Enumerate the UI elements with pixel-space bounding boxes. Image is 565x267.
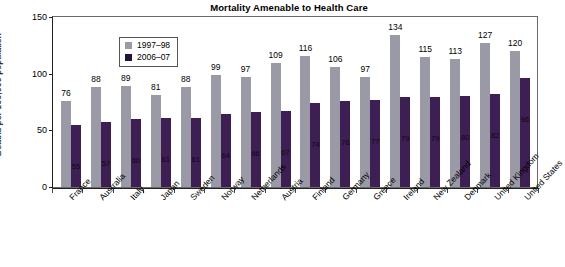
bar-2006-07: 79: [400, 97, 410, 187]
y-tick-label: 50: [23, 126, 47, 135]
y-tick-mark: [49, 130, 53, 131]
bar-2006-07: 74: [310, 103, 320, 187]
x-axis-labels: FranceAustraliaItalyJapanSwedenNorwayNet…: [52, 190, 538, 266]
bar-value-label: 80: [461, 134, 469, 142]
bar-value-label: 76: [341, 139, 349, 147]
bar-value-label: 77: [371, 138, 379, 146]
bar-1997-98: 88: [181, 87, 191, 187]
bar-value-label: 127: [478, 31, 492, 40]
bar-2006-07: 55: [71, 125, 81, 187]
y-tick-label: 100: [23, 70, 47, 79]
legend-item-new: 2006–07: [125, 53, 170, 63]
bar-value-label: 134: [388, 23, 402, 32]
bar-value-label: 116: [299, 44, 313, 53]
bar-group: 12782: [475, 17, 505, 187]
bar-group: 13479: [385, 17, 415, 187]
bar-group: 7655: [56, 17, 86, 187]
bar-group: 9766: [236, 17, 266, 187]
y-tick-label: 150: [23, 13, 47, 22]
bar-group: 11380: [445, 17, 475, 187]
bar-value-label: 82: [491, 132, 499, 140]
bar-value-label: 109: [268, 51, 282, 60]
bar-value-label: 61: [192, 156, 200, 164]
bar-group: 8857: [86, 17, 116, 187]
bar-value-label: 79: [401, 135, 409, 143]
bar-1997-98: 88: [91, 87, 101, 187]
bar-value-label: 97: [241, 65, 250, 74]
bar-2006-07: 66: [251, 112, 261, 187]
bar-2006-07: 82: [490, 94, 500, 187]
bar-2006-07: 61: [161, 118, 171, 187]
bar-2006-07: 64: [221, 114, 231, 187]
legend-item-old: 1997–98: [125, 41, 170, 51]
bar-value-label: 79: [431, 135, 439, 143]
bar-value-label: 60: [132, 157, 140, 165]
bar-1997-98: 134: [390, 35, 400, 187]
bar-2006-07: 77: [370, 100, 380, 187]
legend-label-new: 2006–07: [137, 53, 170, 63]
bar-1997-98: 89: [121, 86, 131, 187]
bar-value-label: 115: [418, 45, 432, 54]
bar-value-label: 120: [508, 39, 522, 48]
bar-1997-98: 97: [241, 77, 251, 187]
bar-value-label: 61: [162, 156, 170, 164]
bar-value-label: 76: [61, 89, 70, 98]
bar-value-label: 67: [281, 149, 289, 157]
y-tick-label: 0: [23, 183, 47, 192]
legend-swatch-new-icon: [125, 54, 132, 61]
bar-1997-98: 76: [61, 101, 71, 187]
bar-1997-98: 115: [420, 57, 430, 187]
bar-value-label: 106: [328, 55, 342, 64]
bar-value-label: 74: [311, 141, 319, 149]
bar-1997-98: 116: [300, 56, 310, 187]
bar-1997-98: 99: [211, 75, 221, 187]
bar-group: 9777: [355, 17, 385, 187]
bar-value-label: 96: [521, 116, 529, 124]
bar-group: 9964: [206, 17, 236, 187]
legend-label-old: 1997–98: [137, 41, 170, 51]
bar-2006-07: 67: [281, 111, 291, 187]
bar-value-label: 89: [121, 74, 130, 83]
bar-value-label: 66: [251, 150, 259, 158]
bar-value-label: 88: [91, 75, 100, 84]
bar-2006-07: 60: [131, 119, 141, 187]
bar-group: 11579: [415, 17, 445, 187]
bar-group: 11674: [296, 17, 326, 187]
y-axis-title-wrap: Deaths per 100,000 population*: [0, 0, 20, 190]
bar-1997-98: 106: [330, 67, 340, 187]
bar-value-label: 81: [151, 83, 160, 92]
bar-2006-07: 79: [430, 97, 440, 187]
legend-swatch-old-icon: [125, 42, 132, 49]
bar-value-label: 88: [181, 75, 190, 84]
legend: 1997–98 2006–07: [119, 37, 178, 67]
y-tick-mark: [49, 17, 53, 18]
bar-group: 8861: [176, 17, 206, 187]
y-axis-title: Deaths per 100,000 population*: [0, 3, 3, 183]
bar-2006-07: 76: [340, 101, 350, 187]
bar-2006-07: 61: [191, 118, 201, 187]
bar-value-label: 99: [211, 63, 220, 72]
y-tick-mark: [49, 74, 53, 75]
bar-1997-98: 127: [480, 43, 490, 187]
chart-title: Mortality Amenable to Health Care: [0, 2, 548, 13]
bar-1997-98: 81: [151, 95, 161, 187]
bar-value-label: 113: [448, 47, 462, 56]
bar-group: 10676: [325, 17, 355, 187]
bar-2006-07: 57: [101, 122, 111, 187]
bar-value-label: 57: [102, 160, 110, 168]
bar-value-label: 64: [221, 152, 229, 160]
bar-value-label: 97: [361, 65, 370, 74]
bar-value-label: 55: [72, 163, 80, 171]
